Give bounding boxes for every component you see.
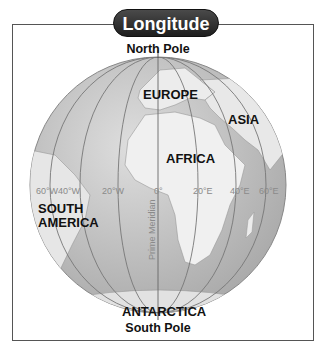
north-pole-label: North Pole bbox=[98, 42, 218, 56]
tick-20w: 20°W bbox=[102, 186, 125, 196]
label-antarctica: ANTARCTICA bbox=[122, 304, 207, 319]
label-asia: ASIA bbox=[228, 112, 260, 127]
tick-60w: 60°W bbox=[36, 186, 59, 196]
south-pole-label: South Pole bbox=[98, 321, 218, 335]
label-europe: EUROPE bbox=[143, 87, 198, 102]
label-south-america-1: SOUTH bbox=[38, 201, 84, 216]
tick-0: 0° bbox=[154, 186, 163, 196]
prime-meridian-label: Prime Meridian bbox=[147, 199, 157, 260]
label-africa: AFRICA bbox=[166, 151, 216, 166]
tick-40w: 40°W bbox=[58, 186, 81, 196]
tick-20e: 20°E bbox=[193, 186, 213, 196]
label-south-america-2: AMERICA bbox=[38, 215, 99, 230]
tick-40e: 40°E bbox=[230, 186, 250, 196]
title-pill: Longitude bbox=[113, 9, 219, 37]
tick-60e: 60°E bbox=[259, 186, 279, 196]
